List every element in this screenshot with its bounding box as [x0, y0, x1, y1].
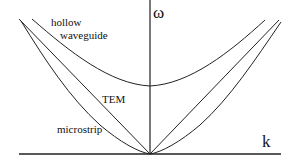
- omega-axis-label: ω: [153, 4, 164, 21]
- microstrip-label: microstrip: [57, 124, 102, 135]
- k-axis-label: k: [262, 133, 271, 150]
- waveguide-label-line2: waveguide: [60, 30, 108, 41]
- dispersion-diagram: hollow waveguide TEM microstrip ω k: [0, 0, 296, 165]
- tem-label: TEM: [102, 94, 125, 105]
- diagram-plot: [0, 0, 296, 165]
- hollow-label-line1: hollow: [51, 17, 82, 28]
